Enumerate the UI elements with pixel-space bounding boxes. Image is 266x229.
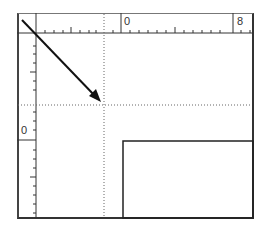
vertical-ruler-ticks: [30, 46, 36, 213]
rectangle-shape[interactable]: [123, 141, 253, 218]
arrow-line[interactable]: [22, 20, 96, 97]
vertical-ruler-origin-label: 0: [21, 124, 27, 136]
horizontal-ruler-origin-label: 0: [124, 15, 130, 27]
canvas-graphics: [0, 0, 266, 229]
horizontal-ruler-ticks: [45, 27, 250, 33]
horizontal-ruler-end-label: 8: [237, 15, 243, 27]
